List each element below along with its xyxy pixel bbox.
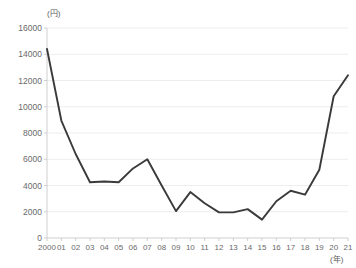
x-axis-unit-label: (年) (330, 253, 343, 264)
x-axis-tick-label: 07 (143, 243, 152, 252)
x-axis-tick-label: 03 (86, 243, 95, 252)
x-axis-tick-label: 08 (157, 243, 166, 252)
x-axis-tick-label: 15 (258, 243, 267, 252)
series-line (47, 49, 348, 220)
x-axis-tick-label: 09 (172, 243, 181, 252)
y-axis-tick-label: 4000 (23, 181, 42, 191)
x-axis-tick-label: 18 (301, 243, 310, 252)
y-axis-tick-label: 14000 (18, 49, 42, 59)
x-axis-tick-label: 17 (286, 243, 295, 252)
x-axis-tick-label: 21 (344, 243, 353, 252)
x-axis-tick-label: 2000 (38, 243, 56, 252)
x-axis-tick-label: 12 (215, 243, 224, 252)
x-axis-tick-label: 20 (329, 243, 338, 252)
y-axis-tick-label: 10000 (18, 102, 42, 112)
y-axis-tick-label: 0 (37, 233, 42, 243)
x-axis-tick-label: 01 (57, 243, 66, 252)
x-axis-tick-label: 16 (272, 243, 281, 252)
x-axis-tick-label: 04 (100, 243, 109, 252)
gridlines (47, 28, 348, 212)
y-axis-tick-label: 12000 (18, 76, 42, 86)
x-axis-tick-label: 05 (114, 243, 123, 252)
y-axis-tick-label: 6000 (23, 154, 42, 164)
line-chart: 0200040006000800010000120001400016000 20… (0, 0, 356, 268)
y-axis-unit-label: (円) (47, 7, 60, 18)
data-series-line (47, 49, 348, 220)
x-axis-tick-label: 19 (315, 243, 324, 252)
y-axis-tick-label: 16000 (18, 23, 42, 33)
x-axis-tick-label: 06 (129, 243, 138, 252)
x-axis-tick-label: 02 (71, 243, 80, 252)
x-axis-tick-label: 10 (186, 243, 195, 252)
y-axis-tick-label: 8000 (23, 128, 42, 138)
chart-plot-area (0, 0, 356, 268)
axis-lines (44, 28, 348, 241)
y-axis-tick-label: 2000 (23, 207, 42, 217)
x-axis-tick-label: 14 (243, 243, 252, 252)
x-axis-tick-label: 13 (229, 243, 238, 252)
x-axis-tick-label: 11 (201, 243, 209, 252)
